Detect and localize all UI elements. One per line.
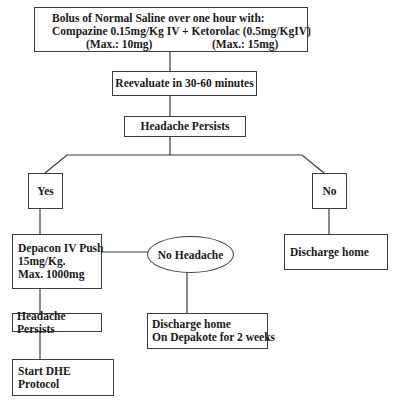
start-dhe-label: Start DHE Protocol	[18, 365, 113, 391]
initial-treatment-max-row: (Max.: 10mg) (Max.: 15mg)	[35, 38, 307, 51]
headache-persists-box-1: Headache Persists	[124, 116, 246, 137]
yes-box: Yes	[28, 173, 63, 209]
reevaluate-label: Reevaluate in 30-60 minutes	[115, 77, 253, 90]
initial-treatment-line2: Compazine 0.15mg/Kg IV + Ketorolac (0.5m…	[35, 25, 307, 38]
depacon-line1: Depacon IV Push	[18, 242, 101, 255]
headache-persists-label-2: Headache Persists	[17, 310, 101, 336]
discharge-home-label: Discharge home	[290, 246, 387, 259]
no-headache-ellipse: No Headache	[147, 236, 234, 273]
no-headache-label: No Headache	[158, 249, 223, 261]
initial-treatment-box: Bolus of Normal Saline over one hour wit…	[34, 7, 308, 52]
yes-label: Yes	[37, 185, 54, 198]
discharge-depakote-line2: On Depakote for 2 weeks	[152, 331, 267, 344]
depacon-line2: 15mg/Kg.	[18, 255, 101, 268]
no-box: No	[312, 173, 347, 209]
discharge-home-box: Discharge home	[284, 234, 388, 270]
ketorolac-max: (Max.: 15mg)	[212, 38, 278, 51]
start-dhe-box: Start DHE Protocol	[12, 359, 114, 396]
initial-treatment-line1: Bolus of Normal Saline over one hour wit…	[35, 12, 307, 25]
depacon-line3: Max. 1000mg	[18, 268, 101, 281]
headache-persists-box-2: Headache Persists	[12, 313, 102, 332]
edge-branch-yes-no	[45, 155, 324, 173]
discharge-depakote-box: Discharge home On Depakote for 2 weeks	[147, 313, 268, 349]
depacon-box: Depacon IV Push 15mg/Kg. Max. 1000mg	[12, 234, 102, 289]
no-label: No	[322, 185, 336, 198]
compazine-max: (Max.: 10mg)	[35, 38, 186, 51]
headache-persists-label-1: Headache Persists	[140, 120, 229, 133]
discharge-depakote-line1: Discharge home	[152, 318, 267, 331]
reevaluate-box: Reevaluate in 30-60 minutes	[112, 71, 257, 96]
